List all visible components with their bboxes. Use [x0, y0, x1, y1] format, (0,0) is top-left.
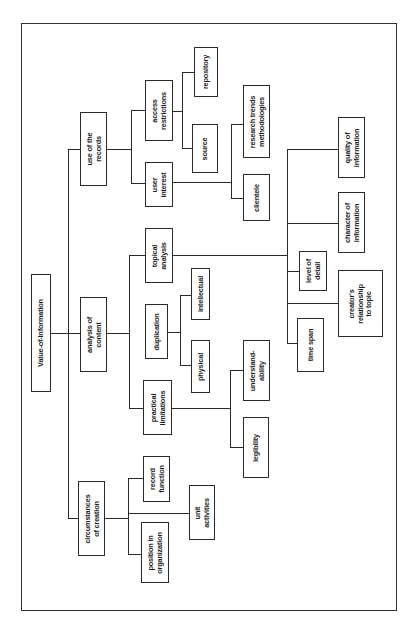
node-label: character of information — [343, 203, 360, 243]
connector — [287, 271, 299, 272]
node-label: creator's relationship to topic — [348, 284, 374, 324]
connector — [172, 408, 231, 409]
connector — [173, 182, 232, 183]
node-circumstances-of-creation: circumstances of creation — [78, 481, 105, 556]
node-label: user interest — [151, 172, 168, 197]
connector — [182, 148, 192, 149]
connector — [105, 518, 129, 519]
connector — [129, 255, 130, 409]
connector — [107, 149, 131, 150]
connector — [107, 333, 129, 334]
node-unit-activities: unit activities — [189, 485, 215, 540]
node-analysis-of-content: analysis of content — [80, 297, 107, 372]
node-creators-relationship-to-topic: creator's relationship to topic — [338, 270, 383, 337]
node-understandability: understand- ability — [243, 340, 270, 401]
connector — [287, 303, 338, 304]
node-label: unit activities — [194, 498, 211, 528]
node-time-span: time span — [297, 318, 324, 372]
connector — [230, 447, 243, 448]
connector — [231, 198, 243, 199]
connector — [180, 295, 181, 366]
connector — [68, 333, 80, 334]
connector — [50, 333, 68, 334]
node-label: topical analysis — [151, 242, 168, 270]
connector — [128, 554, 141, 555]
connector — [182, 72, 183, 149]
node-level-of-detail: level of detail — [299, 251, 327, 291]
connector — [68, 149, 80, 150]
node-label: Value-of-Information — [37, 299, 46, 367]
node-label: quality of information — [343, 128, 360, 166]
node-duplication: duplication — [145, 304, 168, 359]
connector — [180, 365, 191, 366]
connector — [128, 478, 143, 479]
node-label: source — [201, 137, 210, 160]
connector — [131, 110, 132, 184]
connector — [128, 478, 129, 555]
connector — [287, 149, 288, 344]
node-label: access restrictions — [151, 92, 168, 130]
node-source: source — [192, 124, 218, 173]
connector — [231, 124, 243, 125]
node-label: physical — [196, 353, 205, 381]
node-label: circumstances of creation — [83, 494, 100, 543]
node-position-in-organization: position in organization — [141, 522, 169, 583]
node-label: repository — [202, 55, 211, 89]
node-label: use of the records — [85, 133, 102, 166]
node-value-of-information: Value-of-Information — [31, 274, 51, 392]
node-label: position in organization — [147, 532, 164, 574]
connector — [131, 110, 145, 111]
node-intellectual: intellectual — [191, 268, 210, 320]
node-label: duplication — [152, 313, 161, 350]
node-topical-analysis: topical analysis — [145, 228, 173, 283]
node-label: research trends methodologies — [248, 95, 265, 147]
node-clientele: clientele — [243, 174, 270, 221]
node-repository: repository — [194, 47, 218, 97]
connector — [287, 149, 338, 150]
connector — [68, 518, 78, 519]
connector — [287, 223, 338, 224]
node-user-interest: user interest — [145, 162, 173, 207]
node-physical: physical — [191, 340, 210, 393]
node-label: clientele — [252, 184, 261, 212]
node-record-function: record function — [143, 456, 170, 502]
node-access-restrictions: access restrictions — [145, 80, 173, 141]
connector — [231, 124, 232, 199]
connector — [173, 255, 288, 256]
connector — [129, 255, 145, 256]
node-label: time span — [306, 329, 315, 362]
node-label: analysis of content — [85, 316, 102, 352]
connector — [131, 183, 145, 184]
node-label: practical limitations — [149, 390, 166, 425]
node-quality-of-information: quality of information — [338, 117, 365, 178]
connector — [129, 408, 143, 409]
node-legibility: legibility — [243, 417, 269, 478]
connector — [180, 295, 191, 296]
node-label: record function — [148, 465, 165, 493]
node-label: understand- ability — [248, 350, 265, 391]
node-label: level of detail — [305, 259, 322, 283]
connector — [182, 72, 194, 73]
node-label: legibility — [252, 434, 261, 462]
node-practical-limitations: practical limitations — [143, 380, 172, 435]
node-label: intellectual — [196, 276, 205, 312]
connector — [230, 370, 231, 448]
connector — [287, 343, 297, 344]
node-research-trends-methodologies: research trends methodologies — [243, 85, 270, 158]
node-character-of-information: character of information — [338, 192, 365, 253]
connector — [230, 370, 243, 371]
node-use-of-the-records: use of the records — [80, 112, 107, 186]
connector — [128, 513, 189, 514]
